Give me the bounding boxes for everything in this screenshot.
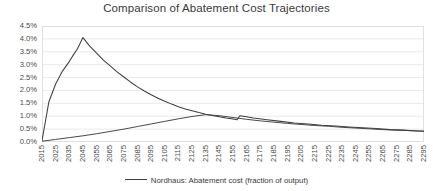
horizontal-gridlines [42, 26, 424, 142]
data-series-line [42, 38, 424, 141]
x-axis-tick-label: 2215 [311, 145, 319, 162]
x-axis-tick-label: 2145 [215, 145, 223, 162]
data-series-group [42, 38, 424, 142]
x-axis-tick-label: 2285 [406, 145, 414, 162]
plot-svg [42, 26, 424, 142]
x-axis-tick-label: 2095 [147, 145, 155, 162]
x-axis-tick-label: 2245 [352, 145, 360, 162]
x-axis-tick-label: 2075 [120, 145, 128, 162]
x-axis-tick-label: 2065 [106, 145, 114, 162]
x-axis-tick-label: 2275 [393, 145, 401, 162]
legend-line-swatch-icon [125, 179, 147, 180]
plot-area [42, 26, 424, 142]
x-axis-tick-label: 2195 [284, 145, 292, 162]
y-axis-tick-label: 0.5% [20, 125, 37, 133]
y-axis-tick-labels: 4.5%4.0%3.5%3.0%2.5%2.0%1.5%1.0%0.5%0.0% [0, 26, 40, 142]
x-axis-tick-label: 2015 [38, 145, 46, 162]
x-axis-tick-label: 2205 [297, 145, 305, 162]
y-axis-tick-label: 1.5% [20, 100, 37, 108]
x-axis-tick-label: 2135 [202, 145, 210, 162]
x-axis-tick-label: 2155 [229, 145, 237, 162]
x-axis-tick-label: 2225 [325, 145, 333, 162]
chart-title: Comparison of Abatement Cost Trajectorie… [0, 2, 433, 14]
x-axis-tick-label: 2045 [79, 145, 87, 162]
y-axis-tick-label: 3.5% [20, 48, 37, 56]
y-axis-tick-label: 2.5% [20, 74, 37, 82]
y-axis-tick-label: 1.0% [20, 112, 37, 120]
x-axis-tick-label: 2175 [256, 145, 264, 162]
x-axis-tick-label: 2165 [243, 145, 251, 162]
x-axis-tick-label: 2125 [188, 145, 196, 162]
legend-label-nordhaus: Nordhaus: Abatement cost (fraction of ou… [151, 176, 308, 185]
x-axis-tick-label: 2055 [93, 145, 101, 162]
x-axis-tick-labels: 2015202520352045205520652075208520952105… [42, 145, 424, 179]
x-axis-tick-label: 2085 [134, 145, 142, 162]
x-axis-tick-label: 2105 [161, 145, 169, 162]
x-axis-tick-label: 2265 [379, 145, 387, 162]
x-axis-tick-label: 2235 [338, 145, 346, 162]
y-axis-tick-label: 0.0% [20, 138, 37, 146]
y-axis-tick-label: 2.0% [20, 87, 37, 95]
y-axis-tick-label: 4.5% [20, 22, 37, 30]
x-axis-tick-label: 2115 [174, 145, 182, 161]
x-axis-tick-label: 2185 [270, 145, 278, 162]
x-axis-tick-label: 2035 [65, 145, 73, 162]
plot-border [43, 27, 424, 142]
x-axis-tick-label: 2255 [365, 145, 373, 162]
chart-container: Comparison of Abatement Cost Trajectorie… [0, 0, 433, 191]
x-axis-tick-label: 2025 [52, 145, 60, 162]
x-axis-tick-label: 2295 [420, 145, 428, 162]
y-axis-tick-label: 4.0% [20, 35, 37, 43]
chart-legend: Nordhaus: Abatement cost (fraction of ou… [0, 176, 433, 185]
y-axis-tick-label: 3.0% [20, 61, 37, 69]
